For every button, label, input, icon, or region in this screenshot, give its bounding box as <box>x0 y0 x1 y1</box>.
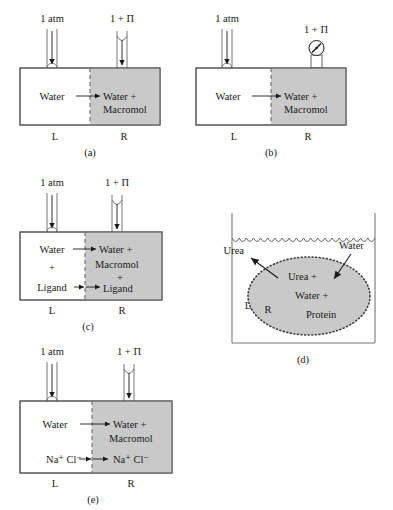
left-salt-label-e: Na⁺ Cl⁻ <box>46 454 82 465</box>
left-side-label-d: L <box>245 300 251 311</box>
panel-c: 1 atm 1 + Π Water + Ligand <box>0 160 196 335</box>
left-side-label-c: L <box>49 305 55 316</box>
right-pressure-label-e: 1 + Π <box>117 346 141 357</box>
right-side-label-b: R <box>304 131 311 142</box>
panel-c-drawing: 1 atm 1 + Π Water + Ligand <box>0 160 196 335</box>
right-side-label-a: R <box>120 131 127 142</box>
right-compartment-line2-b: Macromol <box>284 104 328 115</box>
right-pressure-label-b: 1 + Π <box>304 24 328 35</box>
left-line-1-c: Water <box>40 244 65 255</box>
right-line-3-c: + <box>117 272 123 283</box>
right-pressure-label-c: 1 + Π <box>105 177 129 188</box>
right-side-label-e: R <box>127 478 134 489</box>
water-outside-label-d: Water <box>339 240 364 251</box>
left-compartment-label-b: Water <box>216 91 241 102</box>
caption-a: (a) <box>84 147 96 159</box>
figure-root: 1 atm 1 + Π Water Water + Macromol L R ( <box>0 0 393 510</box>
caption-e: (e) <box>87 494 99 506</box>
left-pressure-label-e: 1 atm <box>40 346 64 357</box>
bag-line-3-d: Protein <box>306 309 337 320</box>
pressure-gauge-b <box>309 41 324 69</box>
left-pressure-label-b: 1 atm <box>215 13 239 24</box>
right-compartment-line1-b: Water + <box>284 91 317 102</box>
panel-e-drawing: 1 atm 1 + Π Water Water + Macromol Na⁺ C… <box>0 335 196 510</box>
caption-d: (d) <box>297 354 310 366</box>
left-line-3-c: Ligand <box>37 282 67 293</box>
panel-b-drawing: 1 atm 1 + Π Water Water + Macromol L R (… <box>196 0 393 160</box>
right-tube-e <box>124 364 134 401</box>
panel-a: 1 atm 1 + Π Water Water + Macromol L R ( <box>0 0 196 160</box>
right-compartment-line2-e: Macromol <box>109 433 153 444</box>
right-compartment-line1-a: Water + <box>103 91 136 102</box>
panel-d: Urea Water Urea + Water + Protein L R (d… <box>196 196 393 306</box>
bag-line-1-d: Urea + <box>288 271 317 282</box>
right-line-1-c: Water + <box>99 244 132 255</box>
left-pressure-label-a: 1 atm <box>40 13 64 24</box>
right-side-label-c: R <box>118 305 125 316</box>
left-pressure-label-c: 1 atm <box>40 177 64 188</box>
bag-line-2-d: Water + <box>295 290 328 301</box>
left-side-label-e: L <box>52 478 58 489</box>
caption-c: (c) <box>82 321 94 333</box>
right-compartment-line2-a: Macromol <box>103 104 147 115</box>
right-tube-a <box>117 31 127 68</box>
right-compartment-line1-e: Water + <box>113 419 146 430</box>
left-compartment-label-e: Water <box>43 419 68 430</box>
left-tube-c <box>47 193 57 235</box>
right-tube-c <box>112 195 122 232</box>
left-side-label-b: L <box>231 131 237 142</box>
panel-a-drawing: 1 atm 1 + Π Water Water + Macromol L R ( <box>0 0 196 160</box>
left-compartment-label-a: Water <box>40 91 65 102</box>
left-tube-e <box>47 362 57 404</box>
right-side-label-d: R <box>264 304 271 315</box>
panel-d-drawing: Urea Water Urea + Water + Protein L R (d… <box>196 196 393 306</box>
right-salt-label-e: Na⁺ Cl⁻ <box>113 454 149 465</box>
panel-b: 1 atm 1 + Π Water Water + Macromol L R (… <box>196 0 393 160</box>
right-pressure-label-a: 1 + Π <box>110 13 134 24</box>
urea-outside-label-d: Urea <box>224 245 245 256</box>
panel-e: 1 atm 1 + Π Water Water + Macromol Na⁺ C… <box>0 335 196 510</box>
left-line-2-c: + <box>49 262 55 273</box>
left-tube-a <box>47 29 57 71</box>
left-side-label-a: L <box>52 131 58 142</box>
caption-b: (b) <box>265 147 278 159</box>
right-line-2-c: Macromol <box>95 259 139 270</box>
right-line-4-c: Ligand <box>103 283 133 294</box>
left-tube-b <box>222 29 232 71</box>
